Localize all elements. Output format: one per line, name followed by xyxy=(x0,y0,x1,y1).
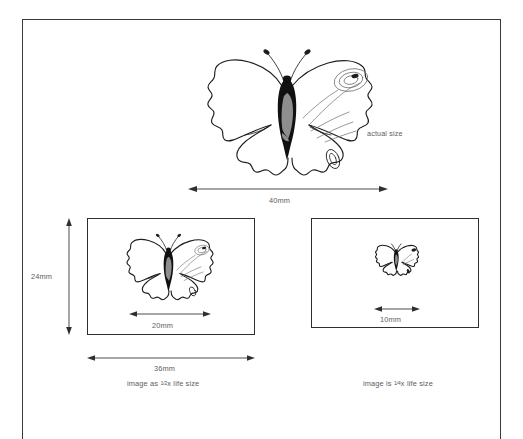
left-caption-prefix: image as xyxy=(127,379,160,388)
right-image-frame: 10mm xyxy=(311,218,479,328)
left-image-frame: 20mm xyxy=(87,218,255,335)
left-box-width-label: 36mm xyxy=(154,365,175,372)
left-inner-dimension-arrow xyxy=(129,309,211,319)
butterfly-half-size-illustration xyxy=(114,227,224,305)
left-box-height-arrow xyxy=(64,218,74,335)
right-caption-suffix: x life size xyxy=(401,379,433,388)
right-caption-fraction: 1⁄4 xyxy=(394,380,401,386)
actual-size-dimension-arrow xyxy=(188,183,388,195)
butterfly-actual-size-illustration xyxy=(183,38,393,183)
left-inner-width-label: 20mm xyxy=(152,322,173,329)
left-box-height-label: 24mm xyxy=(31,273,52,280)
left-box-width-arrow xyxy=(87,353,255,363)
left-panel-caption: image as 1⁄2x life size xyxy=(127,380,199,387)
page-frame: actual size 40mm xyxy=(22,19,501,439)
right-inner-dimension-arrow xyxy=(374,304,420,314)
actual-width-label: 40mm xyxy=(269,197,290,204)
right-inner-width-label: 10mm xyxy=(380,316,401,323)
left-caption-suffix: x life size xyxy=(167,379,199,388)
butterfly-quarter-size-illustration xyxy=(369,239,424,278)
right-panel-caption: image is 1⁄4x life size xyxy=(363,380,433,387)
right-caption-prefix: image is xyxy=(363,379,394,388)
actual-size-label: actual size xyxy=(367,130,403,137)
